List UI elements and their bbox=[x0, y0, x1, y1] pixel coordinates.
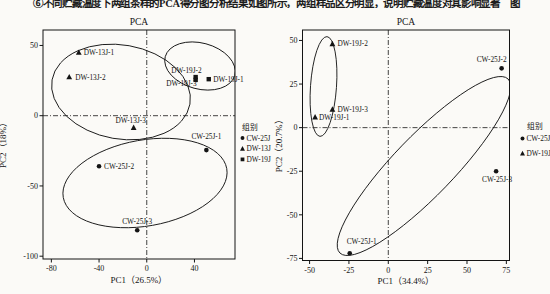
x-tick-label: 0 bbox=[386, 266, 390, 275]
x-tick-label: -80 bbox=[46, 264, 57, 273]
y-axis-label: PC2（20.7%） bbox=[274, 115, 284, 172]
chart-title: PCA bbox=[397, 17, 416, 27]
series-DW-19J: DW-19J-1DW-19J-2DW-19J-3 bbox=[166, 66, 244, 88]
point-label-DW-19J-1: DW-19J-1 bbox=[319, 113, 350, 122]
point-CW-25J-1 bbox=[347, 251, 352, 256]
pca-chart-right: PCA-50-25025507550250-25-50-75PC1（34.4%）… bbox=[274, 17, 550, 286]
x-tick-label: 50 bbox=[463, 266, 471, 275]
series-DW-19J: DW-19J-1DW-19J-2DW-19J-3 bbox=[312, 39, 368, 121]
point-label-DW-19J-3: DW-19J-3 bbox=[337, 105, 368, 114]
legend-label-CW-25J: CW-25J bbox=[527, 134, 550, 143]
point-CW-25J-1 bbox=[204, 148, 209, 153]
point-DW-13J-2 bbox=[66, 74, 72, 79]
top-caption-clipped: ⑥不同贮藏温度下两组茶样的PCA得分图分析结果如图所示，两组样品区分明显，说明贮… bbox=[0, 0, 550, 8]
point-CW-25J-2 bbox=[499, 66, 504, 71]
y-tick-label: -50 bbox=[287, 211, 298, 220]
point-label-CW-25J-1: CW-25J-1 bbox=[347, 237, 377, 246]
point-DW-13J-3 bbox=[131, 125, 137, 130]
x-tick-label: -50 bbox=[304, 266, 315, 275]
pca-figure-canvas: PCA-80-40040500-50-100PC1（26.5%）PC2（18%）… bbox=[0, 0, 550, 294]
point-label-DW-13J-3: DW-13J-3 bbox=[115, 116, 146, 125]
series-CW-25J: CW-25J-1CW-25J-2CW-25J-3 bbox=[347, 55, 513, 255]
x-tick-label: 75 bbox=[502, 266, 510, 275]
point-CW-25J-3 bbox=[135, 228, 140, 233]
x-tick-label: -40 bbox=[94, 264, 105, 273]
point-label-CW-25J-2: CW-25J-2 bbox=[477, 55, 507, 64]
point-DW-19J-1 bbox=[312, 114, 318, 119]
legend: 组别CW-25JDW-13JDW-19J bbox=[240, 122, 271, 165]
point-label-CW-25J-2: CW-25J-2 bbox=[104, 162, 134, 171]
legend-title: 组别 bbox=[527, 121, 543, 131]
legend-label-DW-19J: DW-19J bbox=[527, 149, 550, 158]
y-tick-label: 25 bbox=[290, 80, 298, 89]
point-DW-13J-1 bbox=[76, 49, 82, 54]
pca-chart-left: PCA-80-40040500-50-100PC1（26.5%）PC2（18%）… bbox=[0, 17, 271, 285]
cluster-ellipses bbox=[307, 36, 530, 274]
legend-label-DW-19J: DW-19J bbox=[247, 155, 271, 164]
point-label-DW-19J-2: DW-19J-2 bbox=[337, 39, 368, 48]
zero-reference-lines bbox=[303, 30, 510, 261]
series-CW-25J: CW-25J-1CW-25J-2CW-25J-3 bbox=[97, 132, 222, 232]
legend-marker-DW-13J bbox=[240, 146, 245, 151]
x-tick-label: 25 bbox=[424, 266, 432, 275]
y-tick-label: -25 bbox=[287, 167, 298, 176]
top-caption-text: ⑥不同贮藏温度下两组茶样的PCA得分图分析结果如图所示，两组样品区分明显，说明贮… bbox=[33, 0, 519, 8]
point-label-DW-13J-2: DW-13J-2 bbox=[75, 73, 106, 82]
y-tick-label: 0 bbox=[294, 123, 298, 132]
point-label-DW-19J-2: DW-19J-2 bbox=[171, 66, 202, 75]
y-tick-label: 50 bbox=[30, 41, 38, 50]
point-CW-25J-3 bbox=[494, 169, 499, 174]
point-label-CW-25J-3: CW-25J-3 bbox=[482, 175, 512, 184]
legend-marker-DW-19J bbox=[241, 158, 245, 162]
y-tick-label: 50 bbox=[290, 36, 298, 45]
legend-title: 组别 bbox=[242, 122, 258, 132]
axis-ticks bbox=[40, 45, 195, 262]
point-CW-25J-2 bbox=[97, 164, 102, 169]
x-tick-label: -25 bbox=[344, 266, 355, 275]
plot-border bbox=[303, 30, 510, 261]
legend-marker-CW-25J bbox=[241, 136, 245, 140]
y-tick-label: -100 bbox=[23, 252, 38, 261]
point-label-DW-19J-1: DW-19J-1 bbox=[213, 75, 244, 84]
point-DW-19J-1 bbox=[207, 77, 211, 81]
y-tick-label: -75 bbox=[287, 254, 298, 263]
point-label-DW-19J-3: DW-19J-3 bbox=[166, 79, 197, 88]
point-label-DW-13J-1: DW-13J-1 bbox=[84, 48, 115, 57]
legend-label-CW-25J: CW-25J bbox=[247, 134, 271, 143]
legend: 组别CW-25JDW-19J bbox=[520, 121, 550, 159]
y-tick-label: 0 bbox=[34, 111, 38, 120]
point-DW-19J-2 bbox=[330, 41, 336, 46]
chart-title: PCA bbox=[130, 17, 149, 27]
y-axis-label: PC2（18%） bbox=[0, 118, 8, 168]
point-label-CW-25J-3: CW-25J-3 bbox=[122, 217, 152, 226]
x-tick-label: 40 bbox=[190, 264, 198, 273]
legend-label-DW-13J: DW-13J bbox=[247, 144, 271, 153]
cluster-ellipse-0 bbox=[44, 34, 198, 151]
y-tick-label: -50 bbox=[27, 182, 38, 191]
x-axis-label: PC1（26.5%） bbox=[111, 275, 168, 285]
series-DW-13J: DW-13J-1DW-13J-2DW-13J-3 bbox=[66, 48, 146, 130]
x-axis-label: PC1（34.4%） bbox=[378, 276, 435, 286]
x-tick-label: 0 bbox=[145, 264, 149, 273]
legend-marker-CW-25J bbox=[521, 137, 525, 141]
legend-marker-DW-19J bbox=[520, 151, 525, 156]
axis-ticks bbox=[299, 40, 506, 264]
cluster-ellipse-0 bbox=[307, 36, 340, 138]
point-label-CW-25J-1: CW-25J-1 bbox=[191, 132, 221, 141]
